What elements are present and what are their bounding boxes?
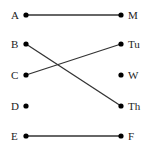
left-label-C: C xyxy=(11,69,18,81)
right-dot-Th xyxy=(118,103,123,108)
left-nodes: ABCDE xyxy=(11,9,29,142)
right-nodes: MTuWThF xyxy=(118,9,140,142)
right-dot-F xyxy=(118,133,123,138)
left-dot-A xyxy=(23,12,28,17)
left-dot-E xyxy=(23,133,28,138)
left-dot-B xyxy=(23,41,28,46)
left-label-B: B xyxy=(11,38,18,50)
right-dot-W xyxy=(118,72,123,77)
right-label-M: M xyxy=(128,9,138,21)
left-label-A: A xyxy=(11,9,19,21)
left-label-D: D xyxy=(11,100,19,112)
right-dot-Tu xyxy=(118,41,123,46)
left-label-E: E xyxy=(11,130,18,142)
edge-C-Tu xyxy=(26,44,121,75)
right-label-Tu: Tu xyxy=(128,38,140,50)
right-label-Th: Th xyxy=(128,100,141,112)
edges xyxy=(26,15,121,136)
right-label-F: F xyxy=(128,130,134,142)
left-dot-C xyxy=(23,72,28,77)
left-dot-D xyxy=(23,103,28,108)
matching-diagram: ABCDE MTuWThF xyxy=(0,0,147,143)
right-dot-M xyxy=(118,12,123,17)
edge-B-Th xyxy=(26,44,121,106)
right-label-W: W xyxy=(128,69,139,81)
